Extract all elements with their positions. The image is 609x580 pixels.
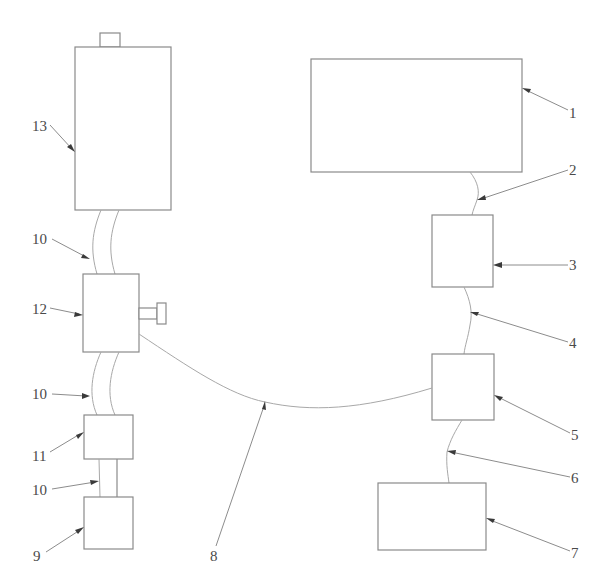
tank-cap xyxy=(100,33,120,47)
component-7-box xyxy=(378,483,486,550)
leader-5 xyxy=(494,395,570,433)
label-9: 9 xyxy=(33,548,41,564)
leader-1 xyxy=(522,88,568,110)
valve-body xyxy=(83,274,139,352)
bolt-head xyxy=(157,303,166,324)
component-5-box xyxy=(432,354,494,420)
label-11: 11 xyxy=(32,448,46,464)
label-8: 8 xyxy=(210,548,218,564)
leader-10-lower xyxy=(52,480,99,489)
leader-3 xyxy=(493,262,568,268)
label-12: 12 xyxy=(32,301,47,317)
leader-11 xyxy=(50,432,84,452)
leader-12 xyxy=(50,308,83,317)
component-8-line xyxy=(139,334,432,408)
leader-7 xyxy=(486,518,570,551)
label-13: 13 xyxy=(32,118,47,134)
label-6: 6 xyxy=(571,470,579,486)
bolt-shaft xyxy=(139,308,157,319)
component-4-line xyxy=(464,287,471,354)
label-7: 7 xyxy=(571,545,579,561)
leader-13 xyxy=(50,125,75,152)
label-3: 3 xyxy=(569,257,577,273)
leader-2 xyxy=(477,170,568,200)
leader-8 xyxy=(216,401,266,546)
label-10-middle: 10 xyxy=(32,386,47,402)
hose-10-upper xyxy=(93,210,119,274)
component-9-box xyxy=(84,497,133,549)
leader-6 xyxy=(447,450,570,477)
component-12-valve xyxy=(83,274,166,352)
label-4: 4 xyxy=(569,335,577,351)
hose-10-lower xyxy=(99,459,117,497)
leader-4 xyxy=(470,312,568,342)
leader-10-upper xyxy=(52,239,90,259)
component-3-box xyxy=(432,215,493,287)
component-1-box xyxy=(311,59,522,172)
patent-diagram: 1 2 3 4 5 6 7 8 9 10 10 10 11 12 13 xyxy=(0,0,609,580)
leader-10-middle xyxy=(52,393,90,399)
component-2-line xyxy=(470,172,478,215)
hose-10-middle xyxy=(92,352,119,415)
label-10-lower: 10 xyxy=(32,482,47,498)
leader-9 xyxy=(46,527,84,552)
label-2: 2 xyxy=(569,162,577,178)
component-13-tank xyxy=(75,33,171,210)
tank-body xyxy=(75,47,171,210)
label-1: 1 xyxy=(569,105,577,121)
label-5: 5 xyxy=(571,427,579,443)
label-10-upper: 10 xyxy=(32,231,47,247)
component-11-box xyxy=(84,415,133,459)
